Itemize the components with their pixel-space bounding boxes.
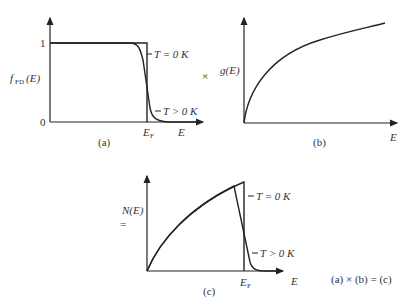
ef-label-a: E — [142, 126, 150, 138]
n-curve-t0 — [147, 182, 244, 271]
step-curve-t0 — [50, 43, 147, 122]
equals-sign: = — [120, 218, 126, 230]
dos-curve — [244, 23, 385, 123]
tick-one: 1 — [40, 37, 46, 49]
ef-sub-c: F — [247, 282, 251, 290]
x-label-c: E — [290, 275, 298, 287]
caption-b: (b) — [313, 136, 326, 149]
ylabel-a-arg: (E) — [26, 72, 40, 85]
caption-a: (a) — [98, 136, 111, 149]
panel-b: g(E) E (b) — [220, 18, 397, 149]
x-label-a: E — [177, 126, 185, 138]
panel-a: 1 0 f FD (E) E F E T = 0 K T > 0 K (a) — [10, 18, 203, 149]
fermi-dirac-diagram: 1 0 f FD (E) E F E T = 0 K T > 0 K (a) ×… — [0, 0, 403, 303]
equation-label: (a) × (b) = (c) — [331, 273, 392, 286]
legend-tpos-a: T > 0 K — [163, 105, 198, 117]
ef-label-c: E — [239, 276, 247, 288]
x-label-b: E — [389, 131, 397, 143]
panel-c: N(E) E F E T = 0 K T > 0 K (c) — [121, 176, 298, 298]
ylabel-c: N(E) — [121, 204, 144, 217]
tick-zero: 0 — [40, 116, 46, 128]
times-sign: × — [202, 70, 208, 82]
legend-t0-a: T = 0 K — [154, 48, 189, 60]
legend-t0-c: T = 0 K — [256, 190, 291, 202]
ylabel-a-sub: FD — [15, 78, 24, 86]
legend-tpos-c: T > 0 K — [260, 247, 295, 259]
caption-c: (c) — [203, 285, 216, 298]
ef-sub-a: F — [150, 132, 154, 140]
ylabel-b: g(E) — [220, 64, 240, 77]
